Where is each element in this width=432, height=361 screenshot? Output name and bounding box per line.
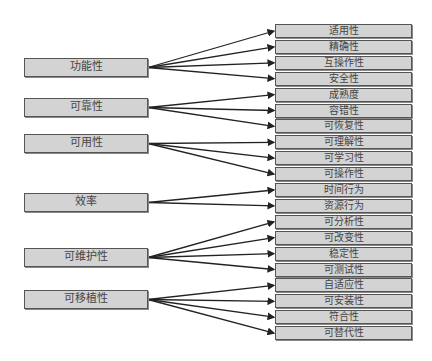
arrow-connector [148, 95, 274, 108]
sub-characteristic-box: 可测试性 [275, 263, 412, 277]
sub-characteristic-box: 容错性 [275, 104, 412, 118]
characteristic-box: 功能性 [24, 58, 148, 77]
sub-characteristic-box: 可操作性 [275, 167, 412, 181]
sub-characteristic-box: 可分析性 [275, 215, 412, 229]
sub-characteristic-box: 安全性 [275, 72, 412, 86]
arrow-connector [148, 63, 274, 68]
arrow-connector [148, 300, 274, 318]
sub-characteristic-box: 可恢复性 [275, 119, 412, 133]
characteristic-box: 可维护性 [24, 248, 148, 267]
arrow-connector [148, 68, 274, 79]
arrow-connector [148, 222, 274, 258]
arrow-connector [148, 144, 274, 159]
sub-characteristic-box: 可学习性 [275, 151, 412, 165]
arrow-connector [148, 285, 274, 299]
sub-characteristic-box: 可替代性 [275, 326, 412, 340]
arrow-connector [148, 31, 274, 68]
characteristic-box: 可靠性 [24, 98, 148, 117]
arrow-connector [148, 300, 274, 334]
arrow-connector [148, 144, 274, 175]
arrow-connector [148, 190, 274, 203]
characteristic-box: 效率 [24, 193, 148, 212]
sub-characteristic-box: 资源行为 [275, 199, 412, 213]
arrow-connector [148, 47, 274, 68]
sub-characteristic-box: 稳定性 [275, 247, 412, 261]
sub-characteristic-box: 精确性 [275, 40, 412, 54]
quality-model-diagram: 功能性可靠性可用性效率可维护性可移植性 适用性精确性互操作性安全性成熟度容错性可… [0, 0, 432, 361]
arrow-connector [148, 203, 274, 206]
sub-characteristic-box: 互操作性 [275, 56, 412, 70]
arrow-connector [148, 300, 274, 302]
sub-characteristic-box: 时间行为 [275, 183, 412, 197]
sub-characteristic-box: 符合性 [275, 310, 412, 324]
sub-characteristic-box: 可改变性 [275, 231, 412, 245]
arrow-connector [148, 258, 274, 270]
sub-characteristic-box: 自适应性 [275, 278, 412, 292]
sub-characteristic-box: 成熟度 [275, 88, 412, 102]
characteristic-box: 可用性 [24, 134, 148, 153]
sub-characteristic-box: 可理解性 [275, 135, 412, 149]
sub-characteristic-box: 适用性 [275, 24, 412, 38]
sub-characteristic-box: 可安装性 [275, 294, 412, 308]
arrow-connector [148, 142, 274, 143]
characteristic-box: 可移植性 [24, 290, 148, 309]
